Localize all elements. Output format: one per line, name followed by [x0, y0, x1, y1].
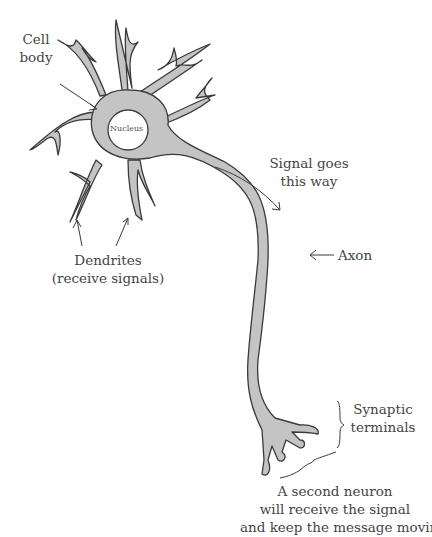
cell-body-label-line2: body: [16, 48, 56, 66]
synaptic-terminals-label: Synaptic terminals: [350, 400, 416, 436]
dendrite-bottom-left: [70, 160, 102, 222]
dendrite-top-right: [140, 44, 210, 98]
signal-label: Signal goes this way: [254, 154, 364, 190]
dendrites-label-line1: Dendrites: [48, 251, 168, 269]
cell-body-label-line1: Cell: [16, 30, 56, 48]
dendrites-arrow-left: [73, 220, 82, 246]
dendrite-top: [115, 20, 138, 92]
cell-body-label: Cell body: [16, 30, 56, 66]
dendrites-arrow-right: [116, 218, 128, 246]
dendrites-label-line2: (receive signals): [48, 269, 168, 287]
second-neuron-line2: will receive the signal: [240, 500, 430, 518]
synaptic-brace: [337, 401, 344, 448]
synaptic-label-line1: Synaptic: [350, 400, 416, 418]
synaptic-label-line2: terminals: [350, 418, 416, 436]
second-neuron-label: A second neuron will receive the signal …: [240, 482, 430, 536]
dendrite-right: [163, 78, 215, 124]
dendrites-label: Dendrites (receive signals): [48, 251, 168, 287]
second-neuron-brace: [280, 452, 336, 478]
signal-label-line2: this way: [254, 172, 364, 190]
axon-arrow: [310, 250, 334, 260]
second-neuron-line3: and keep the message moving!: [240, 518, 430, 536]
signal-label-line1: Signal goes: [254, 154, 364, 172]
cell-body-arrow: [60, 84, 97, 110]
dendrite-bottom-middle: [128, 160, 155, 220]
neuron-shape: [30, 20, 318, 475]
second-neuron-line1: A second neuron: [240, 482, 430, 500]
axon-label: Axon: [338, 246, 372, 264]
nucleus-label: Nucleus: [110, 124, 143, 133]
dendrite-left: [30, 112, 98, 155]
